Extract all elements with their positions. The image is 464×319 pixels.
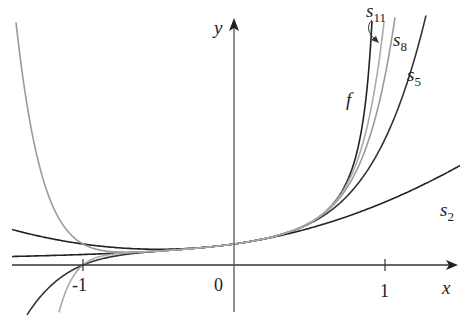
curve-f xyxy=(12,21,372,256)
y-axis-label: y xyxy=(214,18,222,37)
tick-label-neg1: -1 xyxy=(72,276,87,294)
label-s11: s11 xyxy=(366,1,386,24)
x-axis-label: x xyxy=(442,278,450,297)
curve-s2 xyxy=(12,166,460,250)
label-s2: s2 xyxy=(440,200,454,223)
label-s8: s8 xyxy=(393,30,407,53)
curve-s11 xyxy=(59,22,384,312)
s8-sub: 8 xyxy=(400,39,407,54)
s2-sub: 2 xyxy=(447,209,454,224)
s11-sub: 11 xyxy=(373,10,386,25)
label-f: f xyxy=(346,90,351,109)
curve-s8 xyxy=(16,17,395,252)
s5-sub: 5 xyxy=(414,74,421,89)
origin-label: 0 xyxy=(214,276,223,294)
label-s5: s5 xyxy=(407,65,421,88)
curves-group xyxy=(12,16,460,315)
tick-label-1: 1 xyxy=(380,282,389,300)
curve-s5 xyxy=(27,16,426,315)
